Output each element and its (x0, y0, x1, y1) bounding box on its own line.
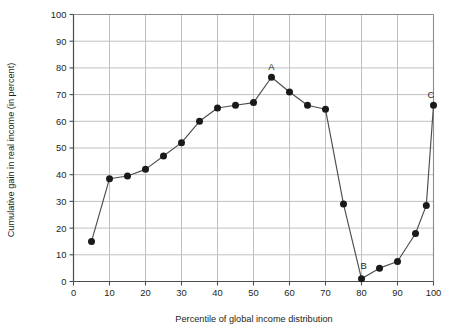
data-point-marker (196, 118, 203, 125)
data-point-marker (142, 166, 149, 173)
x-tick-label: 50 (248, 287, 258, 298)
x-tick-label: 60 (284, 287, 294, 298)
y-axis-title: Cumulative gain in real income (in perce… (6, 63, 16, 238)
point-label-b: B (361, 260, 367, 271)
y-tick-labels: 0102030405060708090100 (51, 9, 67, 287)
data-point-marker (394, 258, 401, 265)
data-point-marker (214, 104, 221, 111)
data-point-marker (124, 173, 131, 180)
chart-figure: 0102030405060708090100 01020304050607080… (0, 0, 468, 333)
y-tick-label: 90 (56, 36, 66, 47)
data-point-marker (250, 99, 257, 106)
x-tick-label: 100 (426, 287, 442, 298)
y-tick-label: 70 (56, 89, 66, 100)
data-point-marker (322, 106, 329, 113)
y-tick-label: 60 (56, 116, 66, 127)
x-tick-label: 40 (212, 287, 222, 298)
y-tick-label: 50 (56, 142, 66, 153)
data-point-marker (286, 88, 293, 95)
x-tick-label: 10 (104, 287, 114, 298)
data-point-markers (88, 74, 437, 283)
y-tick-label: 100 (51, 9, 67, 20)
data-point-marker (304, 102, 311, 109)
series-path (92, 77, 434, 279)
data-point-marker (232, 102, 239, 109)
data-point-marker (423, 202, 430, 209)
data-point-marker (88, 238, 95, 245)
grid-lines (74, 15, 434, 282)
x-tick-label: 30 (176, 287, 186, 298)
y-tick-label: 0 (61, 276, 66, 287)
data-point-marker (160, 153, 167, 160)
data-point-marker (268, 74, 275, 81)
data-point-marker (106, 175, 113, 182)
axis-ticks (70, 15, 434, 286)
data-point-marker (178, 139, 185, 146)
data-series-line (92, 77, 434, 279)
y-tick-label: 20 (56, 223, 66, 234)
data-point-marker (340, 201, 347, 208)
x-tick-label: 90 (392, 287, 402, 298)
data-point-marker (376, 265, 383, 272)
x-tick-label: 70 (320, 287, 330, 298)
x-axis-title: Percentile of global income distribution (175, 314, 332, 324)
y-tick-label: 40 (56, 169, 66, 180)
point-label-c: C (428, 89, 435, 100)
y-tick-label: 10 (56, 249, 66, 260)
x-tick-label: 20 (140, 287, 150, 298)
elephant-curve-chart: 0102030405060708090100 01020304050607080… (0, 0, 468, 333)
point-label-a: A (268, 61, 275, 72)
y-tick-label: 30 (56, 196, 66, 207)
x-tick-label: 0 (71, 287, 76, 298)
x-tick-labels: 0102030405060708090100 (71, 287, 441, 298)
data-point-marker (358, 275, 365, 282)
y-tick-label: 80 (56, 62, 66, 73)
x-tick-label: 80 (356, 287, 366, 298)
data-point-marker (412, 230, 419, 237)
data-point-marker (430, 102, 437, 109)
